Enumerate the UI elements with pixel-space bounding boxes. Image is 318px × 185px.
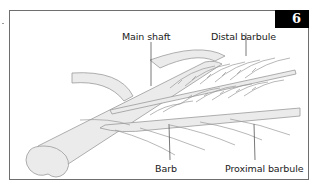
label-main-shaft: Main shaft bbox=[122, 31, 170, 42]
label-distal-barbule: Distal barbule bbox=[211, 31, 276, 42]
figure-number-badge: 6 bbox=[275, 10, 309, 28]
label-barb: Barb bbox=[155, 163, 177, 174]
feather-illustration bbox=[0, 0, 318, 185]
background-barb-left bbox=[72, 73, 133, 101]
label-proximal-barbule: Proximal barbule bbox=[225, 163, 303, 174]
leader-barb bbox=[169, 124, 170, 160]
leader-proximal-barbule bbox=[254, 124, 255, 160]
